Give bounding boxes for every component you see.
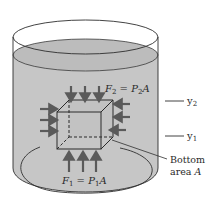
svg-text:y2: y2 bbox=[186, 95, 197, 108]
bottom-area-label-line2: area A bbox=[170, 166, 202, 177]
y2-marker: y2 bbox=[165, 95, 197, 108]
y1-marker: y1 bbox=[165, 130, 197, 143]
fluid-pressure-diagram: F2 = P2A F1 = P1A y2 y1 Bottom area A bbox=[0, 0, 214, 208]
bottom-area-label-line1: Bottom bbox=[170, 154, 205, 165]
svg-text:y1: y1 bbox=[186, 130, 197, 143]
fluid-surface bbox=[13, 39, 158, 71]
